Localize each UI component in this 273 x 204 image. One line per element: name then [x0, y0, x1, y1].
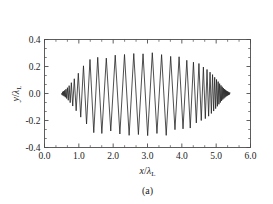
y-tick-label: 0.4 — [29, 35, 41, 45]
y-tick-label: 0.2 — [29, 62, 41, 72]
chart-canvas: 0.01.02.03.04.05.06.0-0.4-0.20.00.20.4x/… — [0, 0, 273, 204]
x-tick-label: 4.0 — [176, 151, 188, 161]
y-tick-label: -0.4 — [25, 143, 40, 153]
x-tick-label: 1.0 — [73, 151, 85, 161]
x-axis-title: x/λL — [139, 165, 156, 178]
y-tick-label: -0.2 — [25, 116, 40, 126]
x-tick-label: 5.0 — [210, 151, 222, 161]
x-tick-label: 6.0 — [245, 151, 257, 161]
x-tick-label: 3.0 — [142, 151, 154, 161]
figure-caption: (a) — [142, 185, 153, 197]
figure-panel: 0.01.02.03.04.05.06.0-0.4-0.20.00.20.4x/… — [0, 0, 273, 204]
y-axis-title: y/λL — [10, 86, 23, 103]
y-tick-label: 0.0 — [29, 89, 41, 99]
x-tick-label: 2.0 — [107, 151, 119, 161]
